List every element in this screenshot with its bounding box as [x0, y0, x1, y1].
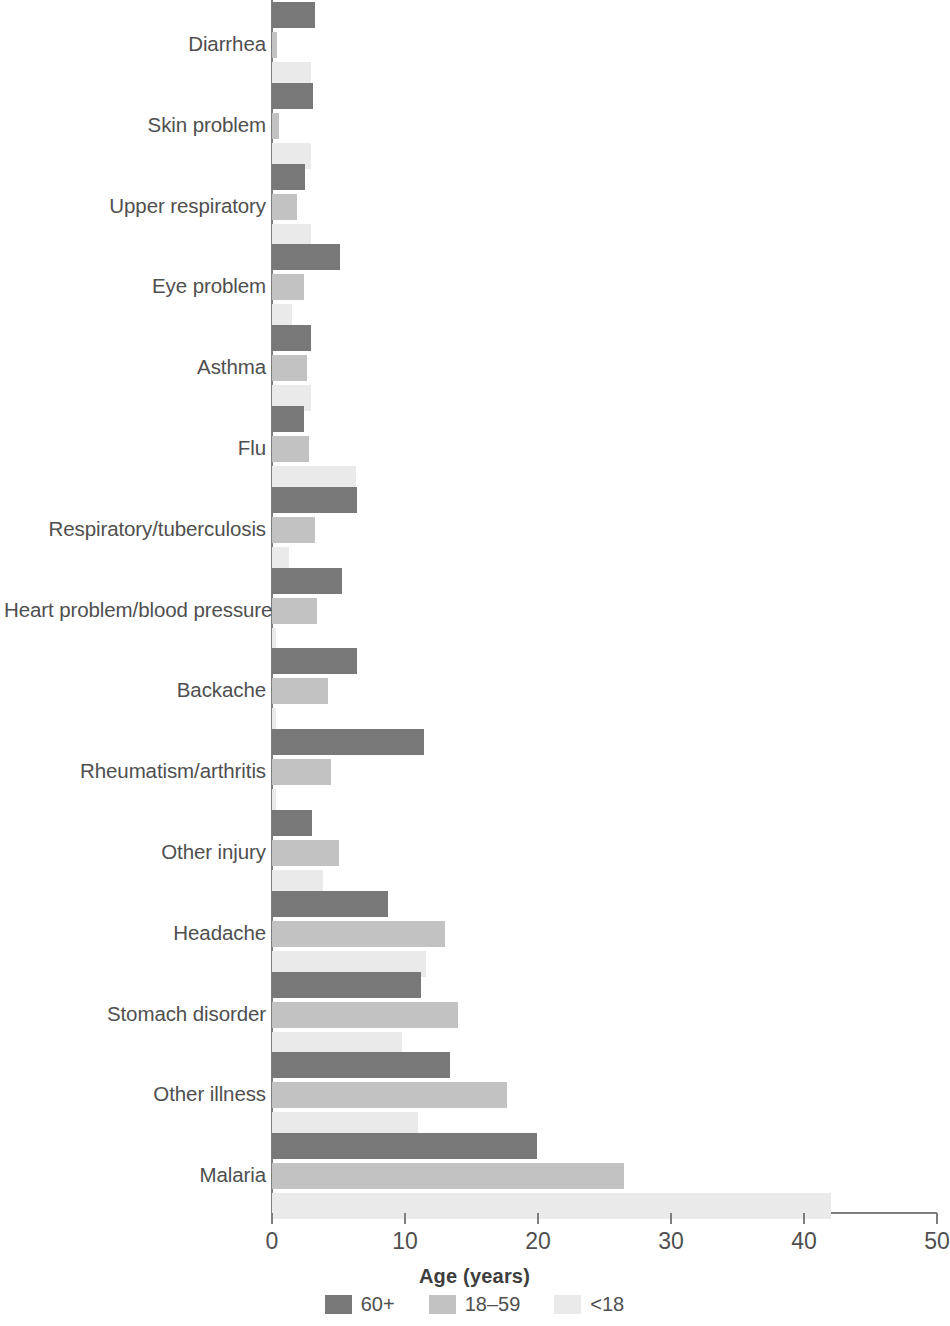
bar[interactable] — [272, 164, 305, 190]
bar[interactable] — [272, 2, 315, 28]
x-axis-tick-label: 10 — [392, 1228, 418, 1255]
bar[interactable] — [272, 1163, 624, 1189]
plot-area — [272, 0, 937, 1213]
bar[interactable] — [272, 568, 342, 594]
bar[interactable] — [272, 598, 317, 624]
bar-row — [272, 436, 937, 462]
category-label: Other injury — [4, 840, 266, 864]
bar-row — [272, 517, 937, 543]
legend-item[interactable]: 60+ — [325, 1293, 395, 1316]
bar[interactable] — [272, 1002, 458, 1028]
bar-row — [272, 274, 937, 300]
bar-row — [272, 1082, 937, 1108]
legend-label: 60+ — [361, 1293, 395, 1316]
bar[interactable] — [272, 921, 445, 947]
bar[interactable] — [272, 487, 357, 513]
bar-row — [272, 487, 937, 513]
bar-row — [272, 2, 937, 28]
category-label: Backache — [4, 678, 266, 702]
bar-row — [272, 113, 937, 139]
bar-row — [272, 32, 937, 58]
bar-group — [272, 244, 937, 334]
bar[interactable] — [272, 1193, 831, 1219]
category-label: Upper respiratory — [4, 194, 266, 218]
legend-swatch-icon — [325, 1295, 352, 1314]
legend-swatch-icon — [554, 1295, 581, 1314]
bar-row — [272, 1193, 937, 1219]
bar[interactable] — [272, 648, 357, 674]
bar-group — [272, 487, 937, 577]
bar[interactable] — [272, 436, 309, 462]
legend-item[interactable]: <18 — [554, 1293, 624, 1316]
category-label: Heart problem/blood pressure — [4, 598, 266, 622]
category-label: Headache — [4, 921, 266, 945]
category-label: Diarrhea — [4, 32, 266, 56]
bar-row — [272, 83, 937, 109]
bar-row — [272, 921, 937, 947]
bar[interactable] — [272, 32, 277, 58]
category-label: Other illness — [4, 1082, 266, 1106]
category-label: Flu — [4, 436, 266, 460]
x-axis-tick — [936, 1213, 938, 1224]
x-axis-tick-label: 30 — [658, 1228, 684, 1255]
bar-row — [272, 244, 937, 270]
chart-legend: 60+18–59<18 — [0, 1293, 949, 1316]
bar-row — [272, 194, 937, 220]
bar[interactable] — [272, 355, 307, 381]
bar-row — [272, 164, 937, 190]
bar[interactable] — [272, 972, 421, 998]
bar[interactable] — [272, 678, 328, 704]
bar-group — [272, 1052, 937, 1142]
x-axis-tick-label: 40 — [791, 1228, 817, 1255]
bar-row — [272, 1133, 937, 1159]
category-label: Respiratory/tuberculosis — [4, 517, 266, 541]
bar-group — [272, 568, 937, 658]
bar-row — [272, 355, 937, 381]
legend-label: 18–59 — [465, 1293, 521, 1316]
x-axis-tick — [271, 1213, 273, 1224]
bar[interactable] — [272, 729, 424, 755]
bar-row — [272, 568, 937, 594]
x-axis-tick-label: 20 — [525, 1228, 551, 1255]
bar[interactable] — [272, 517, 315, 543]
bar-group — [272, 648, 937, 738]
bar[interactable] — [272, 759, 331, 785]
bar-group — [272, 1133, 937, 1223]
bar[interactable] — [272, 1082, 507, 1108]
x-axis-title: Age (years) — [0, 1265, 949, 1288]
bar[interactable] — [272, 1052, 450, 1078]
legend-item[interactable]: 18–59 — [429, 1293, 521, 1316]
category-label: Eye problem — [4, 274, 266, 298]
bar[interactable] — [272, 274, 304, 300]
bar[interactable] — [272, 891, 388, 917]
category-label: Asthma — [4, 355, 266, 379]
bar[interactable] — [272, 840, 339, 866]
bar[interactable] — [272, 1133, 537, 1159]
x-axis-tick — [803, 1213, 805, 1224]
bar-row — [272, 598, 937, 624]
bar-group — [272, 406, 937, 496]
bar-row — [272, 648, 937, 674]
bar[interactable] — [272, 194, 297, 220]
bar[interactable] — [272, 113, 279, 139]
category-label: Malaria — [4, 1163, 266, 1187]
x-axis-tick-label: 0 — [266, 1228, 279, 1255]
bar-row — [272, 759, 937, 785]
bar-row — [272, 891, 937, 917]
legend-swatch-icon — [429, 1295, 456, 1314]
bar[interactable] — [272, 325, 311, 351]
bar-group — [272, 325, 937, 415]
x-axis-tick — [670, 1213, 672, 1224]
bar-row — [272, 729, 937, 755]
bar[interactable] — [272, 810, 312, 836]
bar-row — [272, 972, 937, 998]
category-label: Skin problem — [4, 113, 266, 137]
bar-row — [272, 1163, 937, 1189]
x-axis-tick — [537, 1213, 539, 1224]
bar-row — [272, 325, 937, 351]
bar[interactable] — [272, 244, 340, 270]
bar[interactable] — [272, 83, 313, 109]
bar-group — [272, 891, 937, 981]
bar-row — [272, 810, 937, 836]
bar[interactable] — [272, 406, 304, 432]
